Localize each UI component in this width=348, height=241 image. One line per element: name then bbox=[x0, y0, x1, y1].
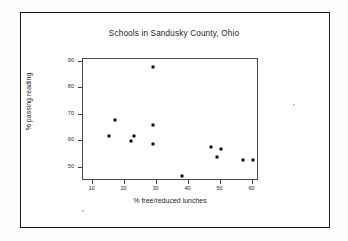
y-tick-label: 70 bbox=[54, 111, 74, 117]
y-tick-label: 80 bbox=[54, 84, 74, 90]
scan-artifact bbox=[293, 104, 295, 106]
data-point bbox=[242, 158, 245, 161]
data-point bbox=[107, 134, 110, 137]
x-tick-mark bbox=[156, 180, 157, 184]
data-point bbox=[152, 65, 155, 68]
chart-title: Schools in Sandusky County, Ohio bbox=[0, 29, 348, 38]
x-axis-title: % free/reduced lunches bbox=[82, 197, 258, 204]
y-tick-label: 50 bbox=[54, 164, 74, 170]
x-tick-mark bbox=[92, 180, 93, 184]
data-point bbox=[152, 124, 155, 127]
x-tick-mark bbox=[220, 180, 221, 184]
x-tick-label: 40 bbox=[180, 186, 196, 192]
data-point bbox=[133, 134, 136, 137]
data-point bbox=[152, 142, 155, 145]
x-tick-label: 50 bbox=[212, 186, 228, 192]
x-tick-label: 20 bbox=[116, 186, 132, 192]
data-point bbox=[130, 140, 133, 143]
x-tick-mark bbox=[188, 180, 189, 184]
x-tick-mark bbox=[252, 180, 253, 184]
x-tick-label: 30 bbox=[148, 186, 164, 192]
x-tick-label: 60 bbox=[244, 186, 260, 192]
data-point bbox=[251, 158, 254, 161]
scatter-plot-figure: Schools in Sandusky County, Ohio % passi… bbox=[0, 0, 348, 241]
y-axis-title: % passing reading bbox=[25, 42, 32, 162]
data-point bbox=[210, 145, 213, 148]
data-point bbox=[181, 174, 184, 177]
data-point bbox=[219, 148, 222, 151]
scan-artifact bbox=[82, 210, 84, 212]
plot-area bbox=[82, 58, 258, 180]
y-tick-label: 60 bbox=[54, 137, 74, 143]
data-point bbox=[114, 119, 117, 122]
x-tick-mark bbox=[124, 180, 125, 184]
x-tick-label: 10 bbox=[84, 186, 100, 192]
data-point bbox=[216, 156, 219, 159]
y-tick-label: 90 bbox=[54, 58, 74, 64]
